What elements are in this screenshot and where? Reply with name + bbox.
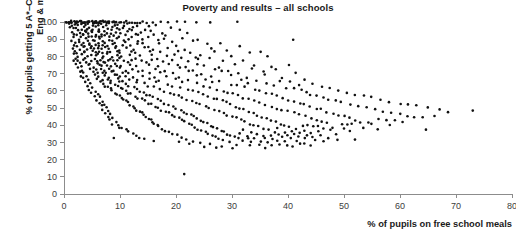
data-point (174, 107, 177, 110)
data-point (262, 128, 265, 131)
data-point (98, 102, 101, 105)
data-point (138, 90, 141, 93)
data-point (303, 78, 306, 81)
data-point (85, 30, 88, 33)
data-point (212, 126, 215, 129)
data-point (180, 57, 183, 60)
data-point (103, 42, 106, 45)
data-point (305, 91, 308, 94)
data-point (135, 81, 138, 84)
data-point (259, 51, 262, 54)
data-point (328, 87, 331, 90)
data-point (237, 137, 240, 140)
data-point (270, 134, 273, 137)
data-point (80, 75, 83, 78)
data-point (111, 39, 114, 42)
data-point (111, 56, 114, 59)
data-point (216, 98, 219, 101)
data-point (211, 81, 214, 84)
data-point (181, 81, 184, 84)
data-point (348, 116, 351, 119)
x-tick-label: 80 (507, 201, 516, 211)
data-point (274, 131, 277, 134)
data-point (74, 50, 77, 53)
data-point (315, 94, 318, 97)
data-point (325, 111, 328, 114)
data-point (229, 103, 232, 106)
data-point (210, 47, 213, 50)
data-point (179, 66, 182, 69)
data-point (180, 109, 183, 112)
data-point (179, 28, 182, 31)
data-point (90, 60, 93, 63)
data-point (127, 130, 130, 133)
data-point (85, 37, 88, 40)
data-point (78, 38, 81, 41)
data-point (226, 133, 229, 136)
data-point (279, 80, 282, 83)
data-point (229, 134, 232, 137)
data-point (173, 115, 176, 118)
data-point (223, 90, 226, 93)
data-point (240, 78, 243, 81)
data-point (202, 85, 205, 88)
data-point (132, 49, 135, 52)
data-point (258, 143, 261, 146)
data-point (94, 58, 97, 61)
data-point (122, 27, 125, 30)
data-point (235, 144, 238, 147)
data-point (127, 92, 130, 95)
data-point (200, 120, 203, 123)
data-point (92, 24, 95, 27)
data-point (106, 64, 109, 67)
data-point (157, 125, 160, 128)
y-tick-label: 70 (47, 69, 57, 79)
data-point (187, 60, 190, 63)
data-point (218, 80, 221, 83)
data-point (145, 61, 148, 64)
data-point (399, 113, 402, 116)
data-point (248, 51, 251, 54)
data-point (114, 73, 117, 76)
data-point (195, 74, 198, 77)
data-point (438, 108, 441, 111)
data-point (399, 103, 402, 106)
data-point (175, 45, 178, 48)
data-point (293, 133, 296, 136)
data-point (256, 133, 259, 136)
data-point (112, 59, 115, 62)
data-point (238, 45, 241, 48)
data-point (123, 21, 126, 24)
data-point (143, 137, 146, 140)
data-point (317, 125, 320, 128)
data-point (303, 142, 306, 145)
data-point (97, 47, 100, 50)
data-point (134, 57, 137, 60)
data-point (111, 43, 114, 46)
chart-root: Poverty and results – all schools % of p… (0, 0, 516, 239)
data-point (83, 51, 86, 54)
data-point (426, 106, 429, 109)
data-point (126, 22, 129, 25)
data-point (98, 37, 101, 40)
data-point (117, 124, 120, 127)
data-point (171, 133, 174, 136)
data-point (341, 123, 344, 126)
data-point (256, 114, 259, 117)
data-point (118, 51, 121, 54)
data-point (82, 76, 85, 79)
data-point (200, 129, 203, 132)
data-point (118, 127, 121, 130)
data-point (287, 99, 290, 102)
data-point (119, 32, 122, 35)
data-point (192, 140, 195, 143)
data-point (82, 71, 85, 74)
data-point (140, 31, 143, 34)
data-point (72, 27, 75, 30)
data-point (99, 59, 102, 62)
data-point (293, 100, 296, 103)
data-point (166, 83, 169, 86)
data-point (425, 128, 428, 131)
data-point (76, 24, 79, 27)
data-point (86, 48, 89, 51)
